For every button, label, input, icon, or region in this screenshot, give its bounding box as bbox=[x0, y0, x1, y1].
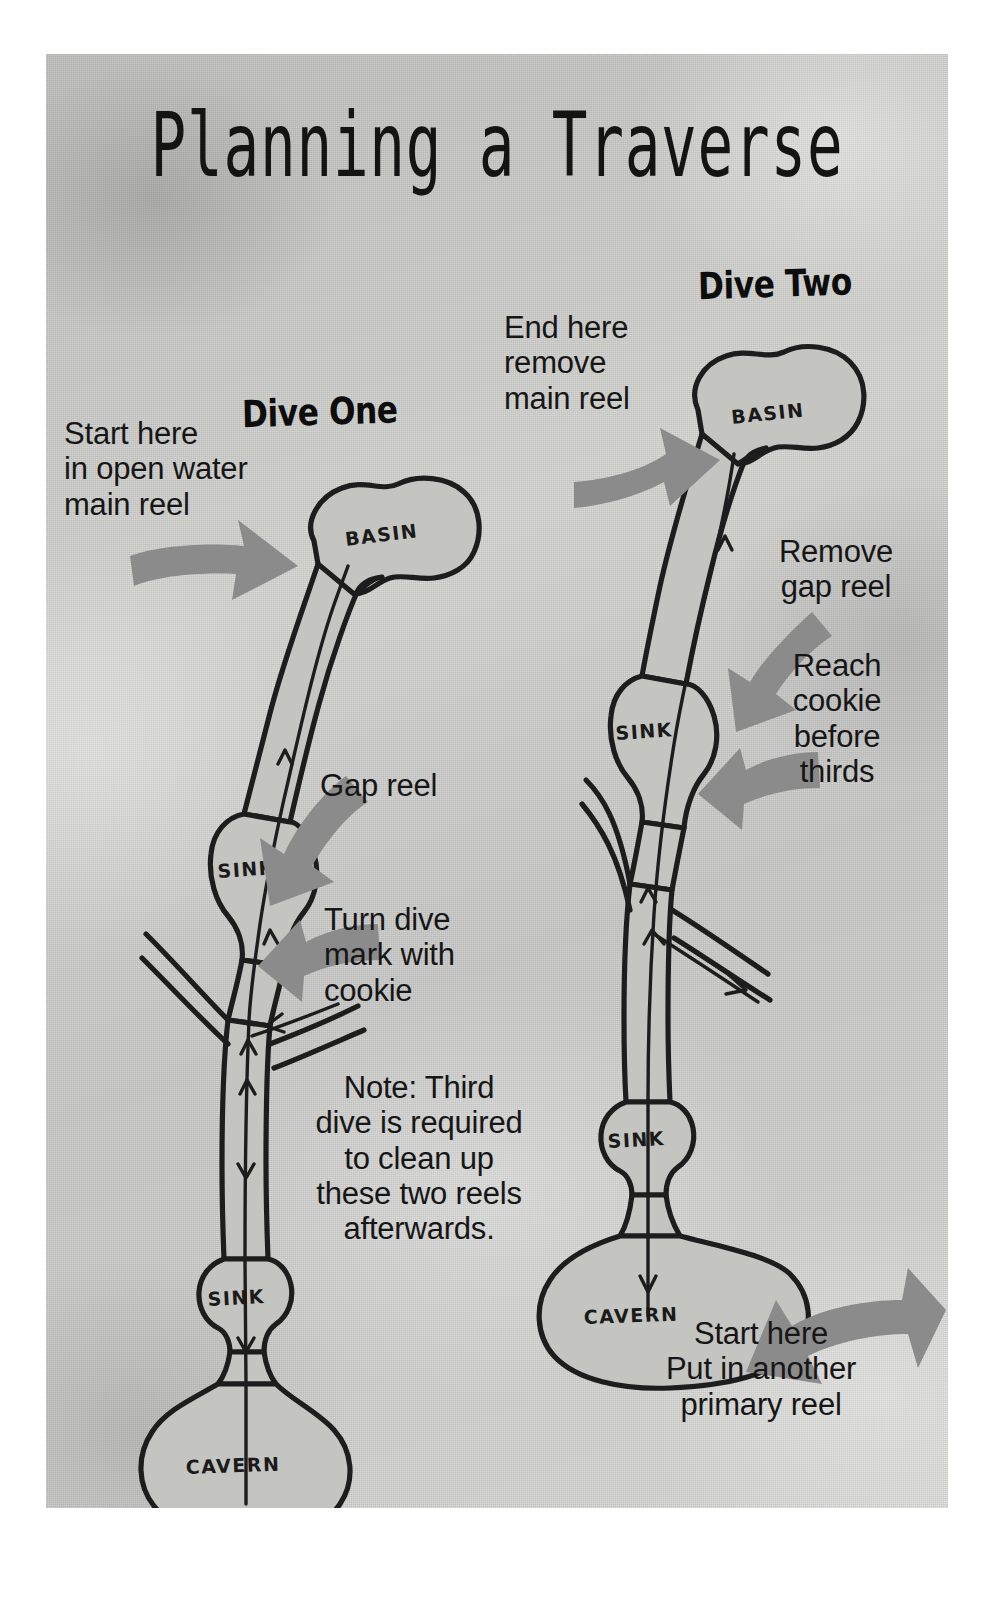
poster-page: Planning a Traverse bbox=[46, 54, 948, 1508]
dive-two-right-branch-upper bbox=[672, 910, 768, 974]
dive-two-start-note: Start here Put in another primary reel bbox=[596, 1316, 926, 1422]
dive-one-gap-reel-note: Gap reel bbox=[320, 768, 500, 803]
dive-two-sink-upper-label: SINK bbox=[615, 718, 674, 744]
third-dive-note: Note: Third dive is required to clean up… bbox=[294, 1070, 544, 1247]
dive-one-turn-note: Turn dive mark with cookie bbox=[324, 902, 524, 1008]
dive-two-reach-cookie-note: Reach cookie before thirds bbox=[752, 648, 922, 789]
dive-two-cavern-neck bbox=[620, 1195, 680, 1236]
dive-two-right-branch-lower bbox=[674, 938, 770, 1000]
dive-two-remove-gap-note: Remove gap reel bbox=[746, 534, 926, 605]
dive-two-sink-lower-label: SINK bbox=[607, 1127, 665, 1152]
dive-two-heading: Dive Two bbox=[698, 259, 853, 308]
dive-two-left-branch-upper bbox=[586, 780, 630, 884]
dive-one-start-note: Start here in open water main reel bbox=[64, 416, 294, 522]
dive-two-end-note: End here remove main reel bbox=[504, 310, 714, 416]
